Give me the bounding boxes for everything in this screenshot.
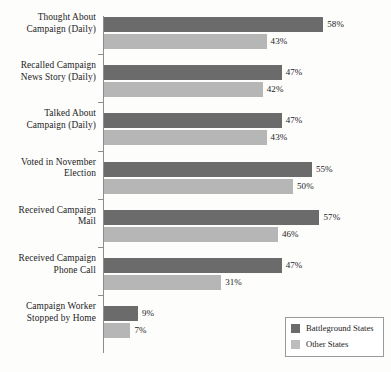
category-label: Voted in NovemberElection <box>0 157 96 180</box>
category-label-line: Received Campaign <box>0 253 96 265</box>
bar-value-label: 46% <box>282 227 299 242</box>
bar-chart: Thought AboutCampaign (Daily)Recalled Ca… <box>0 0 391 372</box>
legend-item-battleground-states: Battleground States <box>291 323 374 333</box>
axis-tick <box>98 199 104 200</box>
axis-tick <box>98 247 104 248</box>
legend-label-battleground-states: Battleground States <box>306 323 374 333</box>
category-label-line: Campaign Worker <box>0 301 96 313</box>
bar <box>104 323 130 338</box>
bar <box>104 275 221 290</box>
category-label-line: News Story (Daily) <box>0 72 96 84</box>
bar-value-label: 43% <box>271 130 288 145</box>
bar <box>104 65 282 80</box>
bar-value-label: 47% <box>286 113 303 128</box>
bar-value-label: 55% <box>316 162 333 177</box>
category-label-line: Received Campaign <box>0 205 96 217</box>
category-label: Campaign WorkerStopped by Home <box>0 301 96 324</box>
bar <box>104 162 312 177</box>
category-label-line: Recalled Campaign <box>0 60 96 72</box>
category-label-line: Election <box>0 168 96 180</box>
bar-value-label: 31% <box>225 275 242 290</box>
bar <box>104 227 278 242</box>
bar <box>104 113 282 128</box>
bar <box>104 82 263 97</box>
category-label-line: Phone Call <box>0 265 96 277</box>
bar-value-label: 42% <box>267 82 284 97</box>
bar-value-label: 47% <box>286 65 303 80</box>
bar <box>104 258 282 273</box>
category-label: Thought AboutCampaign (Daily) <box>0 12 96 35</box>
bar-value-label: 9% <box>142 306 154 321</box>
axis-tick <box>98 295 104 296</box>
category-label: Received CampaignMail <box>0 205 96 228</box>
legend-item-other-states: Other States <box>291 339 348 349</box>
axis-tick <box>98 54 104 55</box>
bar <box>104 130 267 145</box>
legend-label-other-states: Other States <box>306 339 348 349</box>
category-label: Recalled CampaignNews Story (Daily) <box>0 60 96 83</box>
category-label: Talked AboutCampaign (Daily) <box>0 108 96 131</box>
category-label-line: Campaign (Daily) <box>0 24 96 36</box>
category-label: Received CampaignPhone Call <box>0 253 96 276</box>
chart-legend: Battleground States Other States <box>285 317 384 357</box>
bar <box>104 306 138 321</box>
bar-value-label: 47% <box>286 258 303 273</box>
category-label-line: Voted in November <box>0 157 96 169</box>
bar <box>104 17 323 32</box>
category-label-line: Stopped by Home <box>0 313 96 325</box>
legend-swatch-icon-battleground-states <box>291 324 300 333</box>
bar-value-label: 50% <box>297 179 314 194</box>
bar <box>104 34 267 49</box>
axis-tick <box>98 102 104 103</box>
bar <box>104 210 319 225</box>
category-label-line: Talked About <box>0 108 96 120</box>
category-label-line: Campaign (Daily) <box>0 120 96 132</box>
category-label-line: Mail <box>0 216 96 228</box>
bar-value-label: 57% <box>323 210 340 225</box>
category-label-line: Thought About <box>0 12 96 24</box>
bar-value-label: 58% <box>327 17 344 32</box>
bar-value-label: 7% <box>134 323 146 338</box>
axis-tick <box>98 151 104 152</box>
bar <box>104 179 293 194</box>
bar-value-label: 43% <box>271 34 288 49</box>
legend-swatch-icon-other-states <box>291 340 300 349</box>
